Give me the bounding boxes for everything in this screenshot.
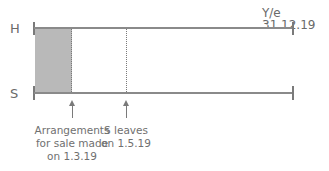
timeline-label-s: S <box>10 87 18 100</box>
timeline-s-line <box>34 92 294 94</box>
arrow-shaft <box>72 104 73 118</box>
caption-line: S leaves <box>101 124 151 137</box>
event-marker-s-leaves <box>126 29 127 92</box>
timeline-label-h: H <box>10 22 20 35</box>
caption-line: on 1.5.19 <box>101 137 151 150</box>
event-caption-s-leaves: S leaves on 1.5.19 <box>101 124 151 150</box>
timeline-h-end-tick <box>292 22 294 35</box>
timeline-h-line <box>34 27 294 29</box>
timeline-s-end-tick <box>292 86 294 100</box>
shaded-period-edge <box>71 29 72 92</box>
shaded-period <box>35 29 72 92</box>
arrow-shaft <box>126 104 127 118</box>
caption-line: on 1.3.19 <box>22 150 122 163</box>
